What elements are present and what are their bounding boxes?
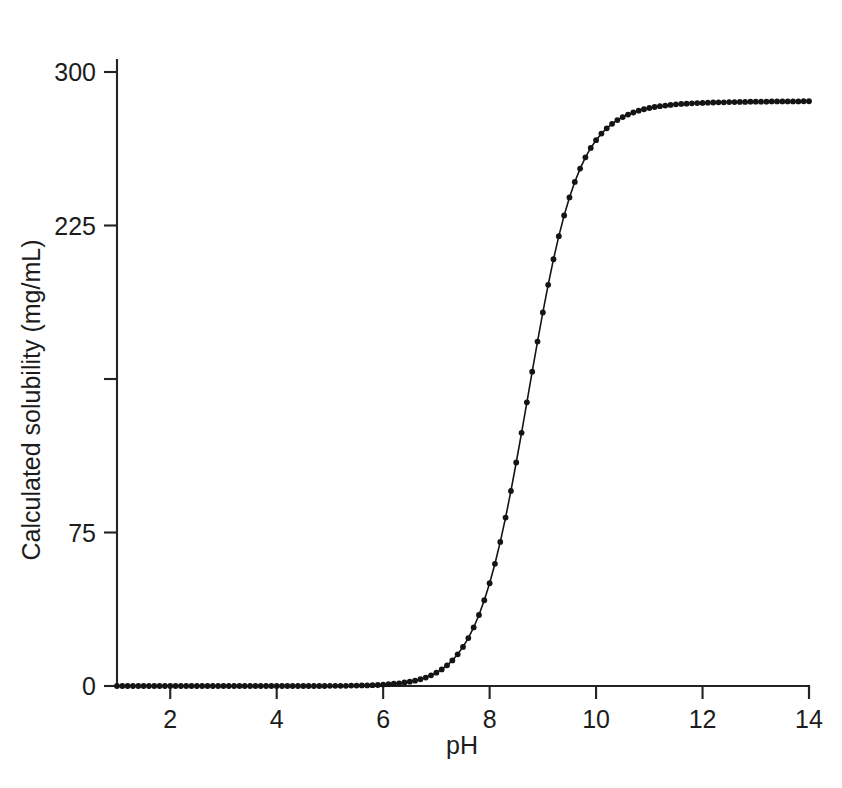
data-point-marker [806, 98, 812, 104]
data-point-marker [348, 683, 354, 689]
data-point-marker [503, 515, 509, 521]
data-point-marker [306, 683, 312, 689]
data-point-marker [551, 256, 557, 262]
data-point-marker [460, 644, 466, 650]
x-tick-label: 2 [163, 705, 177, 733]
data-point-marker [721, 99, 727, 105]
data-point-marker [418, 676, 424, 682]
data-point-marker [556, 233, 562, 239]
data-point-marker [183, 683, 189, 689]
data-point-marker [311, 683, 317, 689]
data-point-marker [593, 137, 599, 143]
x-tick-label: 4 [270, 705, 284, 733]
data-point-marker [380, 682, 386, 688]
data-point-marker [481, 597, 487, 603]
y-axis-title: Calculated solubility (mg/mL) [17, 240, 45, 561]
data-point-marker [657, 103, 663, 109]
data-point-marker [774, 99, 780, 105]
data-point-marker [231, 683, 237, 689]
data-point-marker [178, 683, 184, 689]
data-point-marker [779, 99, 785, 105]
data-point-marker [258, 683, 264, 689]
data-point-marker [497, 539, 503, 545]
data-point-marker [684, 101, 690, 107]
data-point-marker [375, 682, 381, 688]
data-point-marker [412, 678, 418, 684]
data-point-marker [343, 683, 349, 689]
data-point-marker [199, 683, 205, 689]
data-point-marker [173, 683, 179, 689]
chart-figure: 075225300 2468101214 pH Calculated solub… [0, 0, 842, 788]
data-point-marker [625, 112, 631, 118]
data-point-marker [316, 683, 322, 689]
data-point-marker [125, 683, 131, 689]
data-point-marker [449, 658, 455, 664]
data-point-marker [253, 683, 259, 689]
data-point-marker [535, 339, 541, 345]
data-point-marker [290, 683, 296, 689]
data-point-marker [567, 195, 573, 201]
data-point-marker [370, 682, 376, 688]
data-point-marker [359, 682, 365, 688]
data-point-marker [247, 683, 253, 689]
data-point-marker [801, 98, 807, 104]
data-point-marker [423, 675, 429, 681]
data-point-marker [407, 679, 413, 685]
data-point-marker [668, 102, 674, 108]
solubility-ph-chart: 075225300 2468101214 pH Calculated solub… [0, 0, 842, 788]
data-point-marker [583, 154, 589, 160]
data-point-marker [130, 683, 136, 689]
data-point-marker [471, 625, 477, 631]
data-point-marker [476, 612, 482, 618]
data-point-marker [540, 310, 546, 316]
data-point-marker [614, 117, 620, 123]
data-point-marker [322, 683, 328, 689]
data-point-marker [694, 100, 700, 106]
data-point-marker [732, 99, 738, 105]
data-point-marker [748, 99, 754, 105]
solubility-curve [117, 101, 809, 686]
data-point-marker [524, 399, 530, 405]
data-point-marker [268, 683, 274, 689]
data-point-marker [726, 99, 732, 105]
data-point-marker [577, 166, 583, 172]
data-point-marker [753, 99, 759, 105]
data-point-marker [678, 101, 684, 107]
data-point-marker [646, 105, 652, 111]
data-point-marker [210, 683, 216, 689]
data-point-marker [338, 683, 344, 689]
data-point-marker [221, 683, 227, 689]
data-point-marker [428, 672, 434, 678]
y-axis-ticks [104, 72, 117, 686]
data-point-marker [364, 682, 370, 688]
data-point-marker [673, 101, 679, 107]
data-point-marker [742, 99, 748, 105]
data-point-marker [205, 683, 211, 689]
data-point-marker [135, 683, 141, 689]
data-point-marker [327, 683, 333, 689]
data-point-marker [279, 683, 285, 689]
data-point-marker [274, 683, 280, 689]
data-point-marker [764, 99, 770, 105]
data-point-marker [295, 683, 301, 689]
data-point-marker [162, 683, 168, 689]
data-point-marker [300, 683, 306, 689]
data-point-marker [386, 681, 392, 687]
data-point-marker [513, 460, 519, 466]
data-point-marker [157, 683, 163, 689]
data-point-marker [604, 125, 610, 131]
data-point-marker [492, 561, 498, 567]
data-point-marker [332, 683, 338, 689]
data-point-marker [710, 100, 716, 106]
data-point-marker [444, 662, 450, 668]
data-point-marker [455, 651, 461, 657]
data-point-marker [790, 99, 796, 105]
y-tick-label: 225 [54, 212, 96, 240]
x-axis-tick-labels: 2468101214 [163, 705, 823, 733]
x-tick-label: 14 [795, 705, 823, 733]
x-tick-label: 8 [483, 705, 497, 733]
data-point-marker [785, 99, 791, 105]
data-point-marker [114, 683, 120, 689]
data-point-marker [769, 99, 775, 105]
x-axis-title: pH [446, 731, 478, 759]
